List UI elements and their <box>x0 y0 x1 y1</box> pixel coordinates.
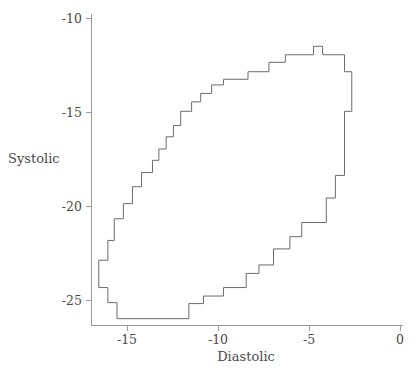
hdr-contour-path <box>99 46 352 318</box>
data-series-group <box>99 46 352 318</box>
diastolic-tick-label: -5 <box>303 332 315 347</box>
chart-figure: -10-15-20-25 -15-10-50 Systolic Diastoli… <box>0 0 415 369</box>
systolic-tick-label: -25 <box>62 293 82 308</box>
x-axis-title: Diastolic <box>217 349 275 364</box>
diastolic-tick-labels: -15-10-50 <box>117 332 404 347</box>
diastolic-tick-marks <box>127 325 400 331</box>
systolic-tick-labels: -10-15-20-25 <box>62 11 82 309</box>
diastolic-tick-label: 0 <box>396 332 404 347</box>
diastolic-tick-label: -15 <box>117 332 137 347</box>
x-axis-group: -15-10-50 <box>91 325 404 347</box>
y-axis-title: Systolic <box>8 151 60 166</box>
systolic-tick-label: -15 <box>62 105 82 120</box>
systolic-tick-marks <box>86 18 91 301</box>
y-axis-group: -10-15-20-25 <box>62 11 91 326</box>
diastolic-tick-label: -10 <box>208 332 228 347</box>
systolic-tick-label: -20 <box>62 199 82 214</box>
chart-canvas: -10-15-20-25 -15-10-50 Systolic Diastoli… <box>0 0 415 369</box>
systolic-tick-label: -10 <box>62 11 82 26</box>
